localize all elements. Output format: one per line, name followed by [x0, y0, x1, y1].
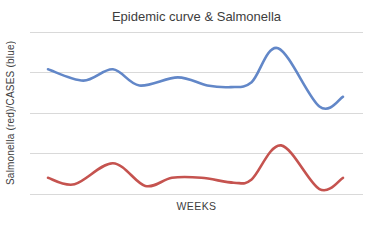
series-line-red — [48, 145, 343, 190]
plot-area — [0, 0, 371, 225]
chart-container: Epidemic curve & Salmonella Salmonella (… — [0, 0, 371, 225]
series-line-blue — [48, 48, 343, 109]
x-axis-label: WEEKS — [30, 200, 363, 212]
